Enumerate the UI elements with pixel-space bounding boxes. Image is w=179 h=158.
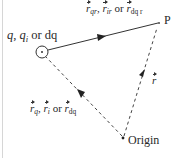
- or-text: or: [50, 102, 65, 114]
- origin-to-source-label: rq, ri or rdq: [30, 103, 76, 114]
- or-text: or: [28, 28, 45, 42]
- origin-label: Origin: [128, 134, 159, 146]
- source-to-field-vector: [48, 23, 158, 50]
- origin-to-field-label: r: [152, 75, 156, 86]
- subscript: q: [34, 107, 38, 116]
- subscript: i: [26, 34, 28, 44]
- vector-symbol: r: [152, 75, 156, 86]
- origin-point-icon: [122, 137, 125, 140]
- charge-label: q, qi or dq: [7, 29, 57, 42]
- arrowhead-icon: [97, 34, 106, 41]
- dq-symbol: dq: [45, 28, 58, 42]
- subscript: i: [48, 107, 50, 116]
- vector-symbol: r: [126, 3, 130, 14]
- origin-to-source-vector: [46, 57, 122, 136]
- subscript: ir: [107, 7, 112, 16]
- charge-point-icon: [36, 46, 48, 58]
- field-point-icon: [158, 22, 160, 24]
- subscript: dq r: [131, 7, 143, 16]
- subscript: qr: [90, 7, 97, 16]
- field-point-label: P: [164, 14, 171, 26]
- arrowhead-icon: [139, 69, 145, 77]
- subscript: dq: [69, 107, 76, 116]
- or-text: or: [112, 2, 127, 14]
- source-to-field-label: rqr, rir or rdq r: [86, 3, 142, 14]
- qi-symbol: q: [20, 28, 26, 42]
